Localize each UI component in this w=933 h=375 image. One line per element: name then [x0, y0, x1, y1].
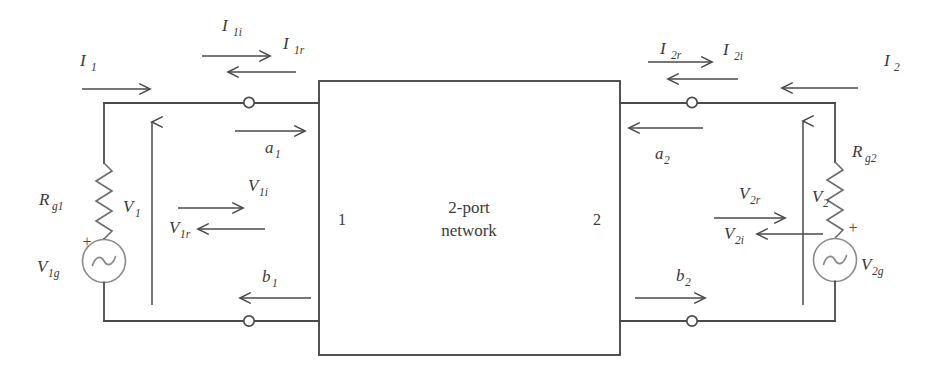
- label-b2-sub: 2: [685, 276, 691, 288]
- terminal-node-port1-bottom: [244, 316, 254, 326]
- polarity-plus-right: +: [848, 219, 857, 236]
- label-v1g-sub: 1g: [48, 267, 60, 280]
- schematic-canvas: 2-port network 1 2 R g1 V 1g + V: [0, 0, 933, 375]
- terminal-node-port2-top: [687, 97, 697, 107]
- label-v1r-sub: 1r: [180, 228, 191, 240]
- label-i2i-base: I: [722, 40, 730, 59]
- terminal-node-port1-top: [244, 97, 254, 107]
- label-i2-sub: 2: [894, 61, 900, 73]
- label-v2g-sub: 2g: [872, 265, 884, 278]
- label-i1i-base: I: [221, 16, 229, 35]
- port-1-number: 1: [338, 211, 346, 228]
- label-b1-sub: 1: [272, 277, 278, 289]
- label-i1-sub: 1: [91, 61, 97, 73]
- label-i2r-base: I: [659, 39, 667, 58]
- label-rg1-base: R: [38, 190, 50, 209]
- resistor-rg2-symbol: [827, 162, 843, 238]
- label-a2-base: a: [655, 144, 664, 163]
- label-v1-sub: 1: [135, 207, 141, 219]
- label-i2-base: I: [883, 51, 891, 70]
- label-v2i-sub: 2i: [735, 234, 744, 246]
- circuit-diagram-figure: 2-port network 1 2 R g1 V 1g + V: [0, 0, 933, 375]
- label-v1i-sub: 1i: [259, 186, 268, 198]
- label-i2i-sub: 2i: [734, 50, 743, 62]
- label-a1-sub: 1: [275, 148, 281, 160]
- label-rg2-sub: g2: [865, 152, 877, 165]
- label-a2-sub: 2: [664, 154, 670, 166]
- label-v2r-sub: 2r: [750, 194, 761, 206]
- label-i1r-sub: 1r: [294, 44, 305, 56]
- label-i2r-sub: 2r: [671, 49, 682, 61]
- label-i1-base: I: [79, 51, 87, 70]
- label-v2-sub: 2: [823, 197, 829, 209]
- terminal-node-port2-bottom: [687, 316, 697, 326]
- port-2-number: 2: [593, 211, 601, 228]
- polarity-plus-left: +: [82, 233, 91, 250]
- label-b1-base: b: [262, 267, 271, 286]
- label-a1-base: a: [265, 138, 274, 157]
- label-rg1-sub: g1: [52, 200, 64, 213]
- resistor-rg1-symbol: [96, 163, 112, 239]
- label-i1i-sub: 1i: [233, 26, 242, 38]
- network-box-label-line1: 2-port: [448, 198, 490, 217]
- label-rg2-base: R: [851, 142, 863, 161]
- two-port-network-box: [319, 81, 620, 355]
- label-b2-base: b: [676, 266, 685, 285]
- label-i1r-base: I: [282, 34, 290, 53]
- network-box-label-line2: network: [441, 221, 497, 240]
